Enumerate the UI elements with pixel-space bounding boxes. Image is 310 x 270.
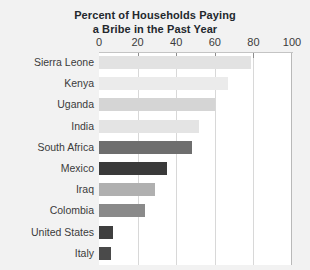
category-label-south-africa: South Africa	[0, 141, 94, 154]
x-tick-label-40: 40	[170, 36, 182, 48]
chart-title-line-2: a Bribe in the Past Year	[0, 22, 310, 36]
plot-area	[99, 53, 292, 265]
category-label-iraq: Iraq	[0, 183, 94, 196]
x-axis-tick-labels: 020406080100	[0, 36, 310, 52]
x-tick-label-80: 80	[247, 36, 259, 48]
category-label-italy: Italy	[0, 247, 94, 260]
category-label-colombia: Colombia	[0, 204, 94, 217]
bar-italy	[99, 247, 111, 260]
gridline-80	[253, 53, 254, 265]
x-tick-label-100: 100	[283, 36, 301, 48]
y-axis-category-labels: Sierra LeoneKenyaUgandaIndiaSouth Africa…	[0, 53, 94, 265]
category-label-mexico: Mexico	[0, 162, 94, 175]
bar-uganda	[99, 98, 215, 111]
bar-colombia	[99, 204, 145, 217]
bar-india	[99, 120, 199, 133]
bar-iraq	[99, 183, 155, 196]
bar-south-africa	[99, 141, 192, 154]
category-label-kenya: Kenya	[0, 77, 94, 90]
x-tick-label-0: 0	[96, 36, 102, 48]
category-label-uganda: Uganda	[0, 98, 94, 111]
x-tick-label-20: 20	[131, 36, 143, 48]
x-tick-label-60: 60	[209, 36, 221, 48]
bar-kenya	[99, 77, 228, 90]
chart-title-line-1: Percent of Households Paying	[0, 8, 310, 22]
category-label-sierra-leone: Sierra Leone	[0, 56, 94, 69]
category-label-united-states: United States	[0, 226, 94, 239]
bar-united-states	[99, 226, 113, 239]
category-label-india: India	[0, 120, 94, 133]
bar-sierra-leone	[99, 56, 251, 69]
bar-chart: Percent of Households Paying a Bribe in …	[0, 0, 310, 270]
chart-title: Percent of Households Paying a Bribe in …	[0, 8, 310, 36]
bar-mexico	[99, 162, 167, 175]
x-tick-80	[253, 53, 254, 58]
